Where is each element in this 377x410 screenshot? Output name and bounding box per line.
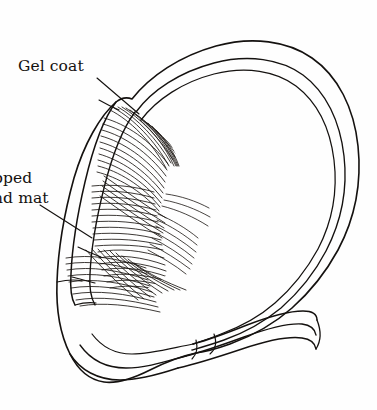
bottom-left-return-outer xyxy=(70,354,178,380)
figure-root: Gel coat pped nd mat xyxy=(0,0,377,410)
chopped-strand-mat-label-line2: nd mat xyxy=(0,188,49,208)
chopped-strand-mat-label-line1: pped xyxy=(0,168,49,188)
bottom-left-return-innermost xyxy=(92,334,193,354)
gel-coat-label-text: Gel coat xyxy=(18,56,84,76)
tail-upper-edge xyxy=(193,311,317,344)
leader-line-gel-coat xyxy=(97,78,139,114)
mat-fibre-tips-upper xyxy=(140,120,179,166)
outer-shell-contour xyxy=(57,41,359,383)
gel-coat-inner-contour xyxy=(136,59,345,350)
laminate-inner-contour xyxy=(141,70,335,344)
gel-coat-label: Gel coat xyxy=(18,56,84,76)
chopped-strand-mat-label: pped nd mat xyxy=(0,168,49,208)
